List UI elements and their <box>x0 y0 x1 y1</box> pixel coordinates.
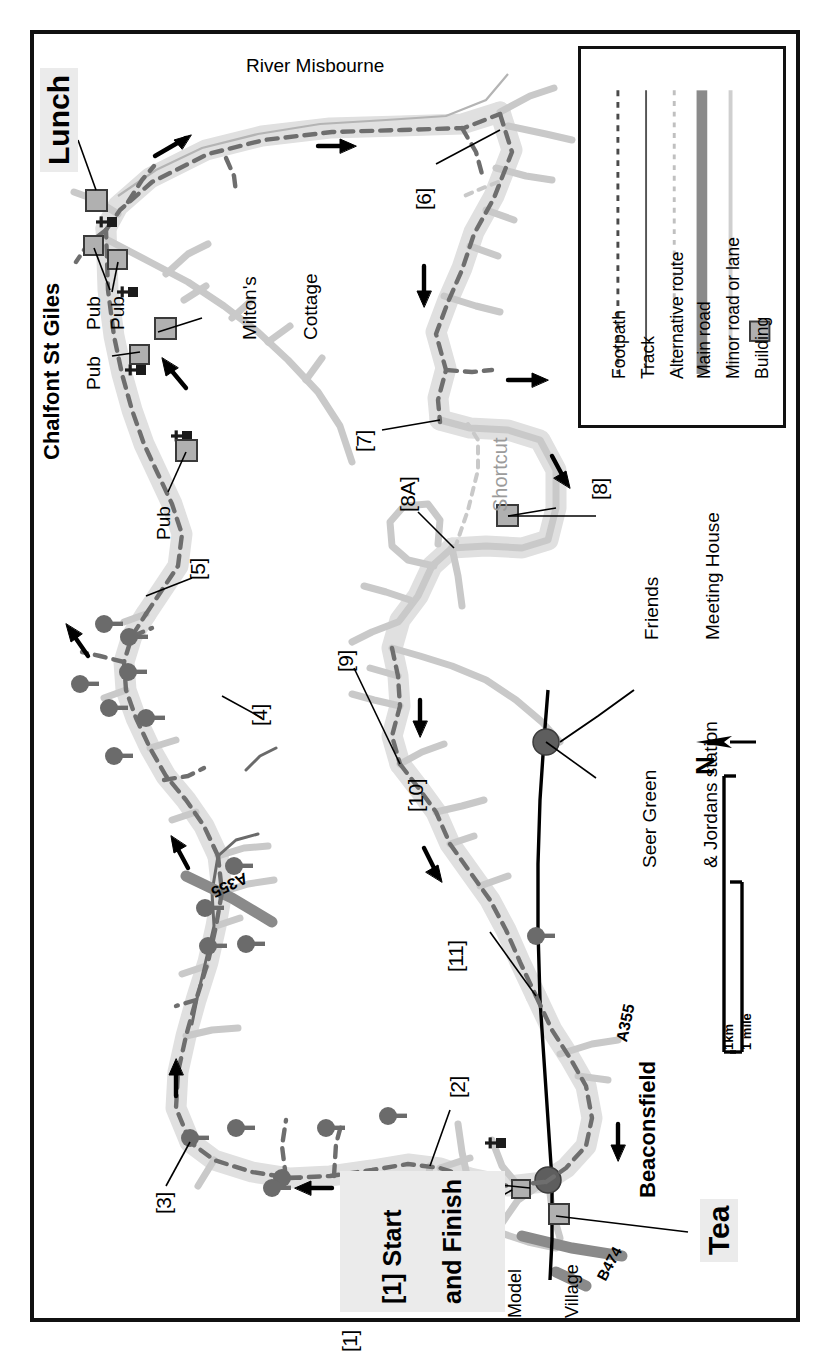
label-pub-1: Pub <box>84 296 104 330</box>
direction-arrow-12 <box>171 836 188 868</box>
shortcut-path <box>455 424 478 548</box>
direction-arrow-3 <box>417 266 431 307</box>
route-map: Footpath Track Alternative route Main ro… <box>0 0 832 1352</box>
building-pub-a <box>84 236 103 255</box>
waypoint-label-8a: [8A] <box>396 477 420 512</box>
legend-label-building: Building <box>752 317 773 379</box>
map-legend: Footpath Track Alternative route Main ro… <box>578 46 786 428</box>
label-shortcut: Shortcut <box>490 438 511 512</box>
legend-label-track: Track <box>638 336 659 379</box>
waypoint-label-6: [6] <box>412 188 436 210</box>
direction-arrow-14 <box>162 358 186 388</box>
label-miltons-cottage-line2: Cottage <box>301 273 321 340</box>
direction-arrow-2 <box>318 139 356 153</box>
label-beaconsfield: Beaconsfield <box>636 1061 659 1198</box>
legend-label-minor-road: Minor road or lane <box>723 237 744 379</box>
scale-label-km: 1km <box>722 1024 736 1050</box>
label-pub-3: Pub <box>84 356 104 390</box>
building-pub-d <box>176 440 197 461</box>
label-chalfont-st-giles: Chalfont St Giles <box>40 283 63 460</box>
label-start-line1: [1] Start <box>379 1179 406 1304</box>
label-pub-2: Pub <box>108 296 128 330</box>
waypoint-label-11: [11] <box>444 941 468 972</box>
waypoint-label-9: [9] <box>334 650 358 672</box>
direction-arrow-4 <box>508 373 548 387</box>
building-pub-c <box>130 345 149 364</box>
building-model-village <box>512 1180 530 1198</box>
label-model-village-line1: Model <box>506 1264 525 1318</box>
waypoint-label-1: [1] <box>338 1330 362 1352</box>
label-tea: Tea <box>700 1199 738 1262</box>
waypoint-label-2: [2] <box>446 1076 470 1098</box>
label-miltons-cottage-line1: Milton's <box>240 273 260 340</box>
building-lunch <box>86 190 107 211</box>
label-pub-4: Pub <box>154 506 174 540</box>
legend-label-footpath: Footpath <box>609 310 630 379</box>
building-tea <box>549 1204 569 1224</box>
direction-arrow-13 <box>66 624 88 656</box>
label-river-misbourne: River Misbourne <box>246 56 384 76</box>
direction-arrow-8 <box>611 1124 625 1161</box>
scale-label-mile: 1 mile <box>740 1013 754 1050</box>
waypoint-label-4: [4] <box>248 704 272 726</box>
label-model-village-line2: Village <box>563 1264 582 1318</box>
label-friends-line2: Meeting House <box>703 512 723 640</box>
legend-label-main-road: Main road <box>694 301 715 379</box>
label-start-line2: and Finish <box>439 1179 466 1304</box>
label-friends-meeting-house: Friends Meeting House <box>602 512 763 640</box>
building-miltons-cottage <box>155 318 176 339</box>
building-markers <box>84 190 569 1224</box>
waypoint-label-8: [8] <box>588 478 612 500</box>
waypoint-label-3: [3] <box>152 1192 176 1214</box>
label-seer-green-station: Seer Green & Jordans station <box>600 721 761 868</box>
direction-arrow-7 <box>424 848 442 882</box>
label-station-line1: Seer Green <box>640 721 660 868</box>
waypoint-label-5: [5] <box>186 558 210 580</box>
label-station-line2: & Jordans station <box>701 721 721 868</box>
label-friends-line1: Friends <box>642 512 662 640</box>
direction-arrow-6 <box>413 700 427 737</box>
waypoint-label-10: [10] <box>404 779 428 812</box>
legend-label-alternative-route: Alternative route <box>667 252 688 379</box>
label-lunch: Lunch <box>40 68 78 172</box>
label-miltons-cottage: Milton's Cottage <box>200 273 361 340</box>
waypoint-label-7: [7] <box>352 430 376 452</box>
